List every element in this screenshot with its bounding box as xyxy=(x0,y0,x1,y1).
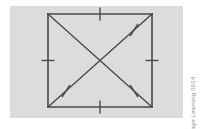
square-diagonals xyxy=(48,14,152,107)
tick-diagonal-lower-right-icon xyxy=(130,85,138,97)
tick-diagonal-upper-right-icon xyxy=(130,24,138,36)
tick-diagonal-lower-left-icon xyxy=(62,85,70,97)
figure-root: © Cengage Learning 2014 xyxy=(0,0,208,129)
copyright-credit-text: © Cengage Learning 2014 xyxy=(190,76,196,129)
square-diagonals-diagram xyxy=(0,0,208,129)
copyright-credit: © Cengage Learning 2014 xyxy=(186,13,200,117)
